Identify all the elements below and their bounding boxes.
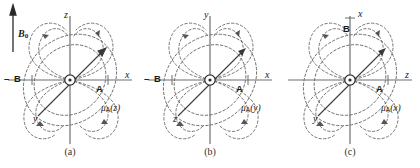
axis-label-z-a: z <box>64 10 68 20</box>
marker-b-prefix-a: – <box>4 74 9 84</box>
dipolar-field-figure: B0 z x y B – A μA(z) (a) <box>0 0 420 168</box>
marker-b-b: B <box>154 74 161 84</box>
panel-c: x B z y A μA(x) (c) <box>280 0 420 168</box>
nucleus-a <box>65 75 75 85</box>
b0-label: B0 <box>18 29 28 40</box>
nucleus-c <box>345 75 355 85</box>
marker-b-prefix-b: – <box>144 74 149 84</box>
nucleus-b <box>205 75 215 85</box>
axis-label-x-a: x <box>125 70 129 80</box>
caption-b: (b) <box>140 146 280 157</box>
axis-label-z-c: z <box>405 70 409 80</box>
panel-b: y x z B – A μA(y) (b) <box>140 0 280 168</box>
caption-a: (a) <box>0 146 140 157</box>
axis-label-y-c: y <box>313 114 317 124</box>
marker-b-c: B <box>343 24 350 34</box>
caption-c: (c) <box>280 146 420 157</box>
marker-a-a: A <box>96 84 103 94</box>
marker-b-a: B <box>14 74 21 84</box>
panel-b-graphic <box>140 0 280 168</box>
axis-label-x-b: x <box>265 70 269 80</box>
panel-c-graphic <box>280 0 420 168</box>
marker-a-c: A <box>376 84 383 94</box>
dipole-label-a: μA(z) <box>101 104 120 114</box>
marker-a-b: A <box>236 84 243 94</box>
dipole-label-c: μA(x) <box>381 104 401 114</box>
b0-arrow <box>10 5 16 52</box>
panel-a: B0 z x y B – A μA(z) (a) <box>0 0 140 168</box>
axis-label-z-b: z <box>173 114 177 124</box>
axis-label-x-c: x <box>358 9 362 19</box>
dipole-label-b: μA(y) <box>241 104 261 114</box>
axis-label-y-a: y <box>33 114 37 124</box>
axis-label-y-b: y <box>204 10 208 20</box>
panel-a-graphic <box>0 0 140 168</box>
